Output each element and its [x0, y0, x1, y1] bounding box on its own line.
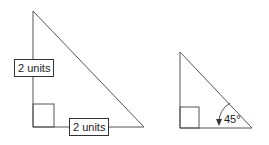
horizontal-leg-label: 2 units	[69, 118, 109, 136]
angle-label: 45°	[224, 113, 241, 125]
vertical-leg-label: 2 units	[14, 59, 54, 77]
arrowhead-icon	[216, 119, 222, 126]
left-right-angle-marker	[33, 104, 54, 127]
right-right-angle-marker	[180, 107, 199, 128]
right-right-triangle	[180, 52, 252, 128]
